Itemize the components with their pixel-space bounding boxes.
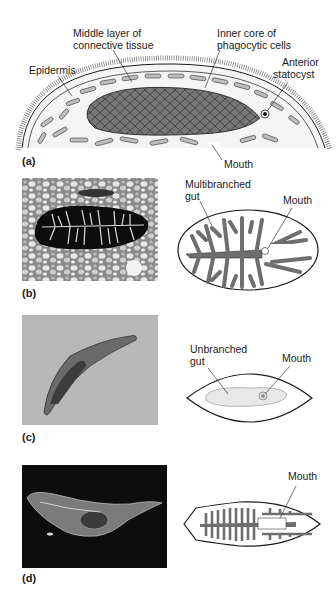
label-mouth-d: Mouth <box>288 470 317 482</box>
panel-d-photo <box>22 465 167 568</box>
figure-graphics <box>0 0 336 599</box>
label-middle-layer-line2: connective tissue <box>73 39 154 51</box>
panel-c-diagram <box>187 366 312 422</box>
panel-letter-a: (a) <box>22 155 35 167</box>
panel-letter-c: (c) <box>22 431 35 443</box>
label-unbranched-gut-line2: gut <box>190 355 205 367</box>
label-inner-core-line1: Inner core of <box>217 27 276 39</box>
panel-c-photo <box>22 315 158 425</box>
label-middle-layer-line1: Middle layer of <box>73 27 141 39</box>
label-epidermis: Epidermis <box>29 64 76 76</box>
panel-letter-b: (b) <box>22 287 36 299</box>
panel-b-diagram <box>178 201 318 290</box>
label-statocyst-line1: Anterior <box>282 56 319 68</box>
label-multibranched-gut-line1: Multibranched <box>185 178 251 190</box>
label-multibranched-gut-line2: gut <box>185 190 200 202</box>
label-statocyst-line2: statocyst <box>273 68 314 80</box>
label-mouth-a: Mouth <box>224 158 253 170</box>
label-mouth-b: Mouth <box>283 194 312 206</box>
label-unbranched-gut-line1: Unbranched <box>190 343 247 355</box>
panel-letter-d: (d) <box>22 572 36 584</box>
label-inner-core-line2: phagocytic cells <box>217 39 291 51</box>
label-mouth-c: Mouth <box>282 352 311 364</box>
panel-b-photo <box>22 178 158 281</box>
panel-d-diagram <box>184 486 320 546</box>
